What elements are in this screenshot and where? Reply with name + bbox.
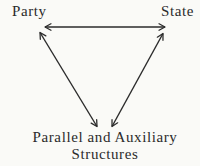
edge-state-structures [112, 34, 163, 127]
node-structures-label: Parallel and Auxiliary Structures [10, 129, 200, 163]
edge-party-structures [40, 33, 97, 127]
edges [40, 27, 165, 127]
node-state-label: State [161, 3, 194, 20]
node-party-label: Party [12, 3, 47, 20]
node-structures-label-line1: Parallel and Auxiliary [10, 129, 200, 146]
diagram: Party State Parallel and Auxiliary Struc… [0, 0, 200, 166]
node-structures-label-line2: Structures [10, 146, 200, 163]
